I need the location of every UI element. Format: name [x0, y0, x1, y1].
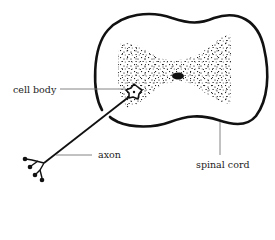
spinal-cord-label: spinal cord — [196, 160, 250, 170]
cell-body-label: cell body — [13, 85, 56, 95]
axon-label: axon — [98, 150, 121, 160]
central-canal — [172, 72, 184, 79]
